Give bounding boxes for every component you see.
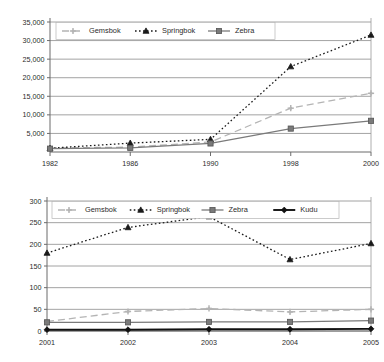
data-point-springbok-1998: [288, 63, 294, 68]
data-point-zebra-1982: [47, 146, 52, 151]
data-point-zebra-2005: [368, 318, 373, 323]
data-point-zebra-1986: [128, 145, 133, 150]
y-tick-label: 10,000: [23, 110, 45, 119]
data-point-gemsbok-2000: [368, 90, 374, 96]
line-chart-bottom-canvas: 05010015020025030020012002200320042005Ge…: [0, 181, 384, 362]
x-tick-label: 2001: [39, 338, 55, 347]
series-springbok: [44, 214, 374, 262]
data-point-kudu-2002: [125, 327, 131, 333]
data-point-zebra-2002: [125, 320, 130, 325]
series-line-springbok: [50, 35, 371, 148]
legend-marker-zebra: [210, 207, 215, 212]
line-chart-top-canvas: 5,00010,00015,00020,00025,00030,00035,00…: [0, 0, 384, 181]
legend-label-springbok: Springbok: [162, 26, 196, 35]
data-point-gemsbok-2004: [287, 309, 293, 315]
data-point-zebra-1998: [288, 126, 293, 131]
y-tick-label: 0: [38, 327, 42, 336]
legend-label-gemsbok: Gemsbok: [89, 26, 121, 35]
data-point-gemsbok-2005: [368, 306, 374, 312]
x-tick-label: 1990: [203, 159, 219, 168]
x-tick-label: 2003: [201, 338, 217, 347]
legend-label-springbok: Springbok: [157, 205, 191, 214]
legend: GemsbokSpringbokZebraKudu: [52, 202, 339, 219]
legend: GemsbokSpringbokZebra: [56, 23, 275, 40]
y-tick-label: 100: [30, 283, 42, 292]
x-tick-label: 1982: [42, 159, 58, 168]
line-chart-top: 5,00010,00015,00020,00025,00030,00035,00…: [0, 0, 384, 181]
data-point-zebra-2004: [287, 319, 292, 324]
y-tick-label: 30,000: [23, 36, 45, 45]
y-tick-label: 200: [30, 240, 42, 249]
line-chart-bottom: 05010015020025030020012002200320042005Ge…: [0, 181, 384, 362]
data-point-gemsbok-1998: [288, 105, 294, 111]
data-point-springbok-2005: [368, 240, 374, 245]
series-zebra: [44, 318, 373, 325]
data-point-springbok-1986: [127, 140, 133, 145]
y-tick-label: 5,000: [27, 129, 45, 138]
legend-label-gemsbok: Gemsbok: [85, 205, 117, 214]
legend-label-zebra: Zebra: [235, 26, 255, 35]
x-tick-label: 2004: [282, 338, 298, 347]
series-zebra: [47, 118, 373, 151]
data-point-zebra-2000: [368, 118, 373, 123]
data-point-zebra-1990: [208, 141, 213, 146]
y-axis: 050100150200250300: [30, 197, 48, 336]
y-tick-label: 50: [34, 305, 42, 314]
x-tick-label: 2002: [120, 338, 136, 347]
series-kudu: [44, 326, 374, 333]
data-point-zebra-2001: [44, 320, 49, 325]
y-tick-label: 250: [30, 218, 42, 227]
data-point-springbok-2001: [44, 250, 50, 255]
y-tick-label: 300: [30, 197, 42, 206]
y-tick-label: 25,000: [23, 55, 45, 64]
series-springbok: [47, 32, 374, 151]
legend-marker-zebra: [216, 28, 221, 33]
y-tick-label: 20,000: [23, 73, 45, 82]
x-tick-label: 1986: [122, 159, 138, 168]
data-point-springbok-2002: [125, 224, 131, 229]
legend-label-kudu: Kudu: [300, 205, 317, 214]
y-tick-label: 35,000: [23, 18, 45, 27]
legend-label-zebra: Zebra: [229, 205, 249, 214]
x-tick-label: 1998: [283, 159, 299, 168]
chart-page: 5,00010,00015,00020,00025,00030,00035,00…: [0, 0, 384, 362]
data-point-gemsbok-2003: [206, 305, 212, 311]
data-point-kudu-2001: [44, 327, 50, 333]
data-point-springbok-2000: [368, 32, 374, 37]
x-tick-label: 2005: [363, 338, 379, 347]
y-axis: 5,00010,00015,00020,00025,00030,00035,00…: [23, 18, 50, 152]
data-point-zebra-2003: [206, 319, 211, 324]
y-tick-label: 150: [30, 262, 42, 271]
y-tick-label: 15,000: [23, 92, 45, 101]
x-tick-label: 2000: [363, 159, 379, 168]
